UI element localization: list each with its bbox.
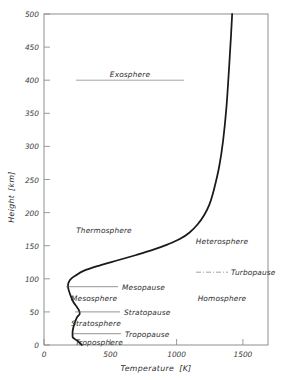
region-label-mesosphere: Mesosphere [71, 294, 117, 303]
x-axis-title: Temperature[K] [120, 364, 191, 373]
y-tick-label: 100 [25, 275, 39, 284]
x-tick-label: 0 [42, 350, 47, 359]
atmosphere-temperature-profile-chart: 0 50 100 150 200 250 300 350 400 450 500… [0, 0, 289, 380]
region-label-homosphere: Homosphere [198, 294, 247, 303]
x-tick-label: 1500 [233, 350, 252, 359]
x-tick-label: 1000 [167, 350, 186, 359]
y-tick-label: 250 [25, 176, 39, 185]
y-tick-label: 300 [25, 142, 39, 151]
y-tick-label: 500 [25, 10, 39, 19]
y-axis-title: Height[km] [7, 171, 16, 222]
region-label-mesopause: Mesopause [122, 283, 165, 292]
y-tick-label: 350 [25, 109, 39, 118]
y-tick-label: 150 [25, 242, 39, 251]
region-label-stratopause: Stratopause [124, 308, 171, 317]
x-tick-label: 500 [103, 350, 117, 359]
y-tick-label: 50 [30, 308, 40, 317]
region-label-heterosphere: Heterosphere [196, 237, 249, 246]
y-tick-label: 0 [34, 341, 39, 350]
region-label-turbopause: Turbopause [231, 268, 276, 277]
y-tick-label: 400 [25, 76, 39, 85]
chart-background [0, 0, 289, 380]
region-label-thermosphere: Thermosphere [76, 226, 132, 235]
region-label-troposphere: Troposphere [75, 338, 123, 347]
region-label-exosphere: Exosphere [110, 70, 151, 79]
region-label-stratosphere: Stratosphere [71, 319, 121, 328]
region-label-tropopause: Tropopause [125, 330, 170, 339]
y-tick-label: 450 [25, 43, 39, 52]
y-tick-label: 200 [25, 209, 39, 218]
